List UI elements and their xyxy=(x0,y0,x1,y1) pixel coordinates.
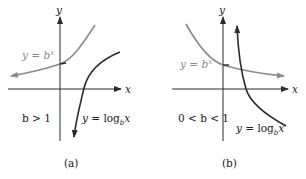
panel-caption: (a) xyxy=(64,157,78,169)
panel-b: x y y = bx 0 < b < 1 y = logbx (b) xyxy=(172,4,298,169)
exp-log-diagram: x y y = bx b > 1 y = logbx (a) x y y = b… xyxy=(0,0,306,179)
log-label: y = logbx xyxy=(235,122,284,137)
log-label: y = logbx xyxy=(81,112,130,127)
exp-label: y = bx xyxy=(21,49,54,61)
condition-label: b > 1 xyxy=(22,112,51,124)
x-axis-label: x xyxy=(125,83,131,95)
y-axis-label: y xyxy=(218,4,226,16)
panel-a: x y y = bx b > 1 y = logbx (a) xyxy=(8,4,131,169)
panel-caption: (b) xyxy=(222,157,237,169)
y-axis-label: y xyxy=(55,4,63,16)
exp-label: y = bx xyxy=(179,58,212,70)
condition-label: 0 < b < 1 xyxy=(178,112,229,124)
x-axis-label: x xyxy=(292,83,298,95)
y-intercept-tick xyxy=(60,63,66,64)
log-curve xyxy=(74,52,120,137)
